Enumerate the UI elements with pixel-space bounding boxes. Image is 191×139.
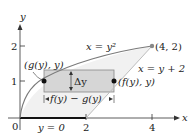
point-intersection: [150, 44, 154, 48]
right-point-label: (f(y), y): [118, 76, 155, 87]
line-label: x = y + 2: [138, 63, 185, 74]
intersection-label: (4, 2): [155, 41, 182, 52]
width-arrow-right-icon: [109, 97, 113, 101]
left-point-leader: [33, 72, 43, 80]
y-tick-label-1: 1: [11, 76, 17, 87]
x-tick-label-4: 4: [149, 122, 155, 133]
y-axis-label: y: [19, 11, 26, 22]
region-diagram: y x 0 2 4 1 2 (g(y), y) (f(y), y) (4, 2)…: [0, 0, 191, 139]
point-left: [42, 79, 47, 84]
bottom-label: y = 0: [37, 122, 65, 133]
y-axis-arrow-icon: [18, 24, 23, 30]
point-right: [112, 79, 117, 84]
left-point-label: (g(y), y): [24, 59, 64, 70]
x-tick-label-0: 0: [12, 121, 18, 132]
delta-y-label: Δy: [74, 76, 87, 87]
x-tick-label-2: 2: [83, 122, 89, 133]
parabola-label: x = y²: [86, 41, 116, 52]
x-axis-label: x: [182, 112, 188, 123]
width-label: f(y) − g(y): [49, 93, 102, 104]
y-tick-label-2: 2: [11, 41, 17, 52]
x-axis-arrow-icon: [174, 116, 180, 121]
